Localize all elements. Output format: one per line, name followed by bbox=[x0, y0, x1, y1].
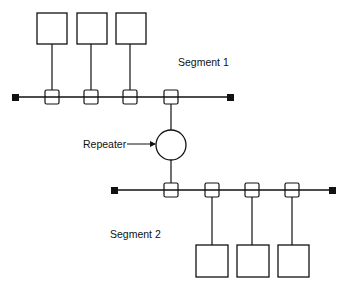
network-diagram: Repeater Segment 1 Segment 2 bbox=[0, 0, 345, 289]
station-box bbox=[278, 245, 309, 277]
repeater-icon bbox=[156, 130, 186, 160]
station-box bbox=[196, 245, 228, 277]
terminator-icon bbox=[227, 94, 234, 101]
terminator-icon bbox=[111, 187, 118, 194]
terminator-icon bbox=[329, 187, 336, 194]
terminator-icon bbox=[12, 94, 19, 101]
station-box bbox=[237, 245, 269, 277]
station-box bbox=[116, 13, 146, 44]
segment-2-label: Segment 2 bbox=[110, 228, 161, 240]
repeater: Repeater bbox=[83, 104, 186, 183]
station-box bbox=[37, 13, 67, 44]
segment-1-label: Segment 1 bbox=[178, 56, 229, 68]
station-box bbox=[77, 13, 107, 44]
repeater-label: Repeater bbox=[83, 138, 127, 150]
